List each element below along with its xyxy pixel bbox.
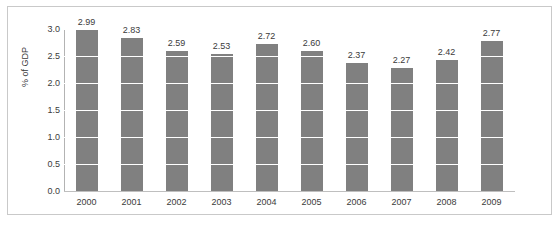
bar[interactable] (76, 30, 98, 191)
x-axis-line (64, 191, 515, 192)
x-axis-tick-label: 2009 (469, 197, 514, 207)
x-axis-tick-label: 2000 (64, 197, 109, 207)
bar[interactable] (166, 51, 188, 191)
x-axis-tick-label: 2005 (289, 197, 334, 207)
x-axis-tick-label: 2002 (154, 197, 199, 207)
x-axis-tick-label: 2007 (379, 197, 424, 207)
bar-group[interactable]: 2.77 (469, 29, 514, 191)
bar-value-label: 2.42 (438, 47, 456, 57)
bar-value-label: 2.53 (213, 41, 231, 51)
bar-value-label: 2.59 (168, 38, 186, 48)
bar[interactable] (481, 41, 503, 191)
bar-value-label: 2.37 (348, 50, 366, 60)
y-axis-tick-label: 0.0 (30, 187, 60, 196)
bar-group[interactable]: 2.99 (64, 29, 109, 191)
bar[interactable] (256, 44, 278, 191)
x-axis-tick-label: 2008 (424, 197, 469, 207)
chart-frame: % of GDP 3.02.52.01.51.00.50.0 2.992.832… (7, 6, 552, 215)
bar[interactable] (121, 38, 143, 191)
y-axis-tick-label: 2.0 (30, 79, 60, 88)
bar-group[interactable]: 2.59 (154, 29, 199, 191)
bar-group[interactable]: 2.37 (334, 29, 379, 191)
y-axis-tick-labels: 3.02.52.01.51.00.50.0 (26, 29, 60, 192)
bar[interactable] (346, 63, 368, 191)
bar-group[interactable]: 2.83 (109, 29, 154, 191)
plot-area: 2.992.832.592.532.722.602.372.272.422.77 (64, 29, 514, 191)
y-axis-tick-label: 2.5 (30, 52, 60, 61)
y-axis-tick-label: 1.5 (30, 106, 60, 115)
bar-group[interactable]: 2.42 (424, 29, 469, 191)
y-axis-tick-label: 0.5 (30, 160, 60, 169)
x-axis-tick-label: 2004 (244, 197, 289, 207)
bar-value-label: 2.83 (123, 25, 141, 35)
bar[interactable] (391, 68, 413, 191)
x-axis-tick-label: 2003 (199, 197, 244, 207)
bar-value-label: 2.72 (258, 31, 276, 41)
bar-group[interactable]: 2.53 (199, 29, 244, 191)
y-axis-tick-label: 3.0 (30, 25, 60, 34)
bar-value-label: 2.27 (393, 55, 411, 65)
x-axis-tick-label: 2006 (334, 197, 379, 207)
bar-value-label: 2.99 (78, 17, 96, 27)
bar-value-label: 2.60 (303, 38, 321, 48)
bar-group[interactable]: 2.27 (379, 29, 424, 191)
bar[interactable] (301, 51, 323, 191)
bar[interactable] (436, 60, 458, 191)
bar-value-label: 2.77 (483, 28, 501, 38)
y-axis-tick-label: 1.0 (30, 133, 60, 142)
bar-group[interactable]: 2.60 (289, 29, 334, 191)
bar[interactable] (211, 54, 233, 191)
x-axis-tick-label: 2001 (109, 197, 154, 207)
bar-group[interactable]: 2.72 (244, 29, 289, 191)
